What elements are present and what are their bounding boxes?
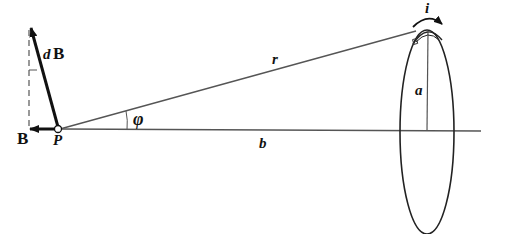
line-r xyxy=(60,31,416,129)
label-dB-B: B xyxy=(53,44,64,63)
label-a: a xyxy=(415,82,423,98)
label-r: r xyxy=(272,51,278,67)
label-B: B xyxy=(17,129,28,148)
label-phi: φ xyxy=(133,109,144,129)
label-b: b xyxy=(259,135,267,151)
dB-vector xyxy=(31,28,58,127)
current-arrow xyxy=(413,19,442,27)
label-i: i xyxy=(425,0,430,16)
radius-a xyxy=(427,32,428,130)
angle-phi-arc xyxy=(126,111,127,130)
label-P: P xyxy=(53,132,63,148)
axis-line-b xyxy=(60,129,481,131)
current-ring xyxy=(400,30,454,234)
label-dB-d: d xyxy=(43,46,51,62)
biot-savart-ring-diagram: d B B P r φ b a i xyxy=(0,0,507,234)
